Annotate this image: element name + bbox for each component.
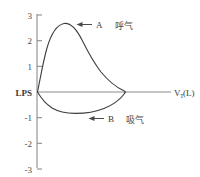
y-tick-label-neg3: -3	[25, 165, 33, 175]
annotation-a: A 呼气	[77, 20, 134, 31]
expiratory-curve	[38, 23, 126, 92]
annotation-cjk-b: 吸气	[126, 114, 144, 125]
x-axis-title-unit: (L)	[183, 88, 195, 98]
y-tick-label-3: 3	[28, 11, 33, 21]
x-axis-title: V T (L)	[174, 88, 195, 99]
y-tick-label-2: 2	[28, 36, 33, 46]
y-tick-label-neg1: -1	[25, 113, 33, 123]
y-axis-origin-label: LPS	[15, 88, 32, 98]
y-tick-label-neg2: -2	[25, 139, 33, 149]
annotation-label-a: A	[96, 20, 103, 30]
annotation-label-b: B	[108, 114, 114, 124]
left-arrow-head-icon-b	[89, 116, 95, 121]
inspiratory-curve	[38, 92, 126, 113]
annotation-cjk-a: 呼气	[115, 20, 133, 31]
left-arrow-head-icon-a	[77, 22, 83, 27]
flow-volume-loop-figure: 3 2 1 -1 -2 -3 LPS V T (L) A 呼气	[0, 0, 200, 177]
annotation-b: B 吸气	[89, 114, 145, 125]
y-tick-label-1: 1	[28, 62, 33, 72]
chart-canvas: 3 2 1 -1 -2 -3 LPS V T (L) A 呼气	[0, 0, 200, 177]
